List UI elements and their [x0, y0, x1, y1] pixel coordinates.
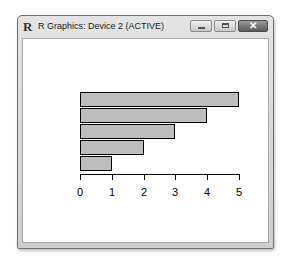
x-axis-tick	[175, 174, 176, 180]
bar-4	[80, 108, 207, 123]
x-axis-tick-label: 5	[232, 186, 246, 198]
x-axis-tick	[239, 174, 240, 180]
r-logo-icon: R	[23, 21, 34, 33]
bar-chart: 012345	[23, 39, 268, 242]
x-axis-tick-label: 0	[73, 186, 87, 198]
x-axis-tick-label: 4	[200, 186, 214, 198]
x-axis-tick-label: 2	[137, 186, 151, 198]
window-controls: ✕	[190, 20, 268, 32]
bar-3	[80, 124, 175, 139]
maximize-icon	[222, 23, 229, 28]
maximize-button[interactable]	[214, 20, 236, 32]
window-title: R Graphics: Device 2 (ACTIVE)	[38, 21, 164, 31]
bar-5	[80, 92, 239, 107]
x-axis-tick	[80, 174, 81, 180]
close-icon: ✕	[239, 20, 267, 31]
x-axis-tick	[207, 174, 208, 180]
x-axis-tick-label: 1	[105, 186, 119, 198]
minimize-button[interactable]	[190, 20, 212, 32]
minimize-icon	[198, 27, 205, 29]
x-axis-tick-label: 3	[168, 186, 182, 198]
bar-2	[80, 140, 144, 155]
x-axis-tick	[144, 174, 145, 180]
plot-area: 012345	[22, 38, 269, 243]
x-axis-tick	[112, 174, 113, 180]
close-button[interactable]: ✕	[238, 20, 268, 32]
title-bar[interactable]: R R Graphics: Device 2 (ACTIVE) ✕	[18, 16, 273, 38]
bar-1	[80, 156, 112, 171]
r-graphics-window: R R Graphics: Device 2 (ACTIVE) ✕ 012345	[17, 15, 274, 249]
x-axis-line	[80, 174, 240, 175]
